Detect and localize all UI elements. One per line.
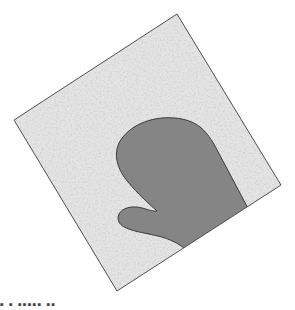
cut-off-caption: ▪ ▪ ▪▪▪▪▪ ▪▪ xyxy=(0,298,80,310)
